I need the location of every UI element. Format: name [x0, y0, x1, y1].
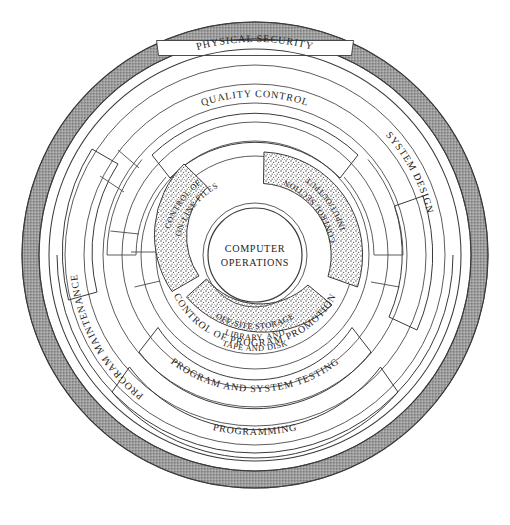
label-program-and-system-testing: PROGRAM AND SYSTEM TESTING: [169, 355, 341, 394]
center-hub: [208, 208, 302, 302]
label-system-design: SYSTEM DESIGN: [384, 129, 436, 215]
label-programming: PROGRAMMING: [212, 421, 298, 437]
label-quality-control: QUALITY CONTROL: [200, 88, 311, 108]
center-label-line1: COMPUTER: [225, 243, 285, 254]
center-label-line2: OPERATIONS: [221, 257, 289, 268]
diagram-canvas: PHYSICAL SECURITY: [0, 0, 510, 525]
security-rings-diagram: PHYSICAL SECURITY: [0, 0, 510, 525]
